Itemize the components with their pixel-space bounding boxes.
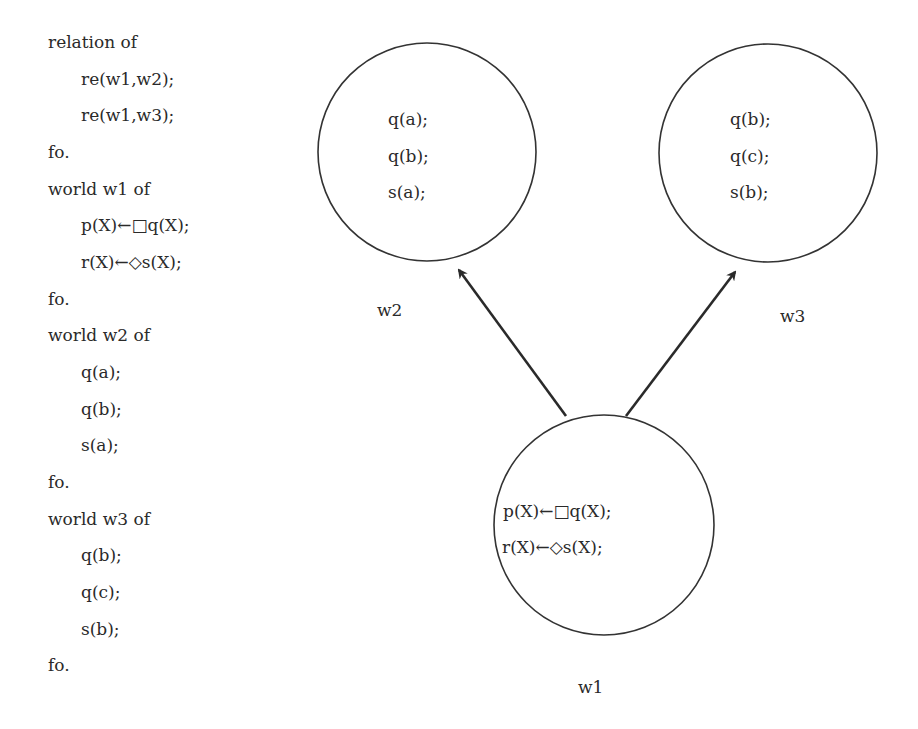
world-fact: s(b);	[730, 182, 769, 202]
world-fact: q(b);	[388, 146, 429, 166]
world-label-w3: w3	[780, 306, 805, 326]
world-node-w2: q(a); q(b); s(a);	[318, 43, 536, 261]
world-circle-w1	[494, 415, 714, 635]
world-node-w3: q(b); q(c); s(b);	[659, 44, 877, 262]
world-node-w1: p(X)←□q(X); r(X)←◇s(X);	[494, 415, 714, 635]
world-fact: q(c);	[730, 146, 769, 166]
kripke-diagram: q(a); q(b); s(a); w2 q(b); q(c); s(b); w…	[0, 0, 918, 729]
world-fact: r(X)←◇s(X);	[502, 537, 603, 557]
world-fact: p(X)←□q(X);	[503, 501, 612, 521]
world-fact: q(a);	[388, 109, 428, 129]
edge-w1-to-w3	[626, 272, 735, 416]
world-fact: s(a);	[388, 182, 426, 202]
world-label-w1: w1	[578, 677, 603, 697]
world-fact: q(b);	[730, 109, 771, 129]
world-label-w2: w2	[377, 300, 402, 320]
edge-w1-to-w2	[459, 270, 566, 416]
